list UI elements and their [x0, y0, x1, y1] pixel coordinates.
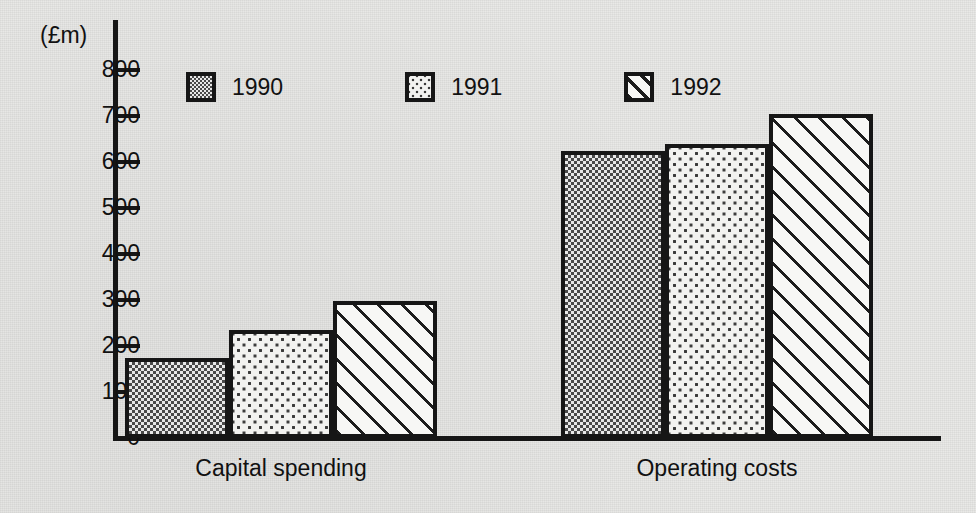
- legend-swatch-1990: [186, 72, 216, 102]
- legend: 199019911992: [186, 72, 722, 102]
- legend-swatch-1991: [405, 72, 435, 102]
- bar-1991-operating-costs: [665, 144, 769, 438]
- legend-label-1992: 1992: [670, 74, 721, 101]
- group-label-operating-costs: Operating costs: [561, 455, 873, 482]
- bar-1990-capital-spending: [125, 358, 229, 439]
- legend-item-1991: 1991: [405, 72, 502, 102]
- bar-1992-operating-costs: [769, 114, 873, 438]
- legend-label-1991: 1991: [451, 74, 502, 101]
- bar-1991-capital-spending: [229, 330, 333, 438]
- legend-item-1990: 1990: [186, 72, 283, 102]
- legend-item-1992: 1992: [624, 72, 721, 102]
- y-axis-unit-label: (£m): [40, 22, 87, 49]
- plot-area: (£m) 0100200300400500600700800 Capital s…: [0, 0, 976, 513]
- chart-figure: (£m) 0100200300400500600700800 Capital s…: [0, 0, 976, 513]
- legend-label-1990: 1990: [232, 74, 283, 101]
- legend-swatch-1992: [624, 72, 654, 102]
- bar-1992-capital-spending: [333, 301, 437, 438]
- bar-1990-operating-costs: [561, 151, 665, 439]
- group-label-capital-spending: Capital spending: [125, 455, 437, 482]
